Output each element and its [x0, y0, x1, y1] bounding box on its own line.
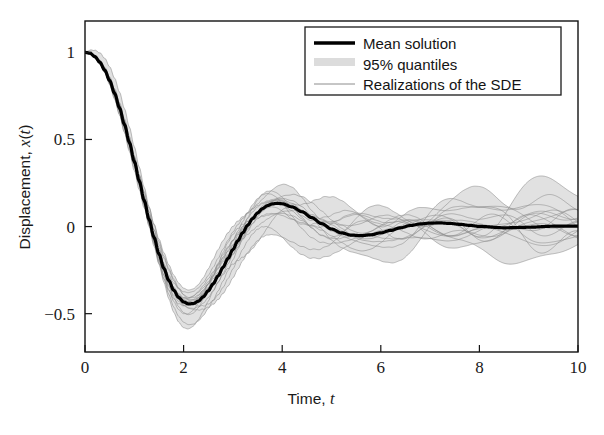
legend-label-quantiles: 95% quantiles [363, 56, 457, 73]
x-tick-label: 6 [377, 358, 386, 377]
legend: Mean solution 95% quantiles Realizations… [305, 27, 561, 95]
y-tick-label: 1 [67, 43, 76, 62]
x-tick-label: 10 [570, 358, 587, 377]
figure-canvas: 0246810 −0.500.51 Time, t Displacement, … [0, 0, 604, 435]
x-tick-label: 4 [278, 358, 287, 377]
legend-label-realizations: Realizations of the SDE [363, 76, 521, 93]
quantile-band-swatch [314, 58, 355, 66]
x-axis-title: Time, t [287, 389, 334, 408]
x-tick-label: 8 [475, 358, 484, 377]
x-tick-label: 2 [179, 358, 188, 377]
legend-label-mean-solution: Mean solution [363, 35, 456, 52]
x-tick-label: 0 [81, 358, 90, 377]
y-tick-label: 0.5 [54, 130, 75, 149]
y-axis-title: Displacement, x(t) [15, 125, 34, 250]
sde-displacement-chart: 0246810 −0.500.51 Time, t Displacement, … [0, 0, 604, 435]
y-tick-label: −0.5 [44, 305, 75, 324]
y-tick-label: 0 [67, 218, 76, 237]
